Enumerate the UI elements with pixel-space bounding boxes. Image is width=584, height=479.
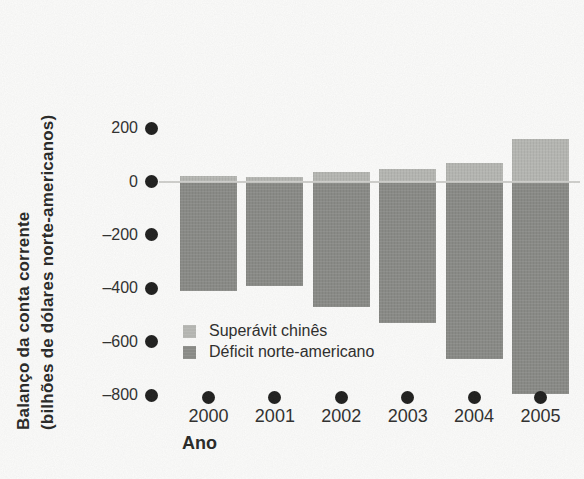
- y-tick-bullet-icon: [145, 122, 158, 135]
- legend-swatch-superavit-icon: [183, 325, 196, 338]
- legend-label-deficit: Déficit norte-americano: [209, 343, 374, 361]
- y-tick-row: 200: [78, 118, 158, 138]
- y-tick-row: –200: [78, 225, 158, 245]
- y-tick-bullet-icon: [145, 228, 158, 241]
- y-tick-bullet-icon: [145, 175, 158, 188]
- bar-deficit-2001: [246, 182, 303, 286]
- y-tick-bullet-icon: [145, 282, 158, 295]
- x-tick-label-2005: 2005: [501, 406, 581, 426]
- legend-swatch-deficit-icon: [183, 346, 196, 359]
- x-tick-bullet-icon: [468, 391, 481, 404]
- y-tick-label: –600: [102, 333, 138, 351]
- bar-deficit-2004: [446, 182, 503, 360]
- y-tick-label: –800: [102, 386, 138, 404]
- x-tick-bullet-icon: [202, 391, 215, 404]
- legend-label-superavit: Superávit chinês: [209, 322, 327, 340]
- current-account-balance-chart: Balanço da conta corrente (bilhões de dó…: [0, 0, 584, 479]
- y-tick-bullet-icon: [145, 389, 158, 402]
- bar-superavit-2005: [512, 139, 569, 181]
- y-axis-title: Balanço da conta corrente (bilhões de dó…: [12, 28, 60, 430]
- x-tick-bullet-icon: [335, 391, 348, 404]
- legend: Superávit chinês Déficit norte-americano: [183, 322, 374, 361]
- y-tick-label: 0: [129, 173, 138, 191]
- y-tick-row: 0: [78, 172, 158, 192]
- y-tick-bullet-icon: [145, 335, 158, 348]
- legend-item-superavit: Superávit chinês: [183, 322, 374, 340]
- zero-line: [159, 181, 580, 183]
- y-axis-title-line2: (bilhões de dólares norte-americanos): [36, 28, 60, 430]
- bar-deficit-2002: [313, 182, 370, 307]
- bar-deficit-2003: [379, 182, 436, 324]
- legend-item-deficit: Déficit norte-americano: [183, 343, 374, 361]
- y-axis-title-line1: Balanço da conta corrente: [12, 28, 36, 430]
- y-tick-label: –200: [102, 226, 138, 244]
- bar-deficit-2005: [512, 182, 569, 394]
- bar-superavit-2004: [446, 163, 503, 182]
- y-tick-row: –400: [78, 278, 158, 298]
- x-tick-bullet-icon: [268, 391, 281, 404]
- y-tick-label: 200: [111, 119, 138, 137]
- bar-deficit-2000: [180, 182, 237, 291]
- y-tick-row: –600: [78, 332, 158, 352]
- x-tick-bullet-icon: [534, 391, 547, 404]
- y-tick-row: –800: [78, 385, 158, 405]
- y-tick-label: –400: [102, 279, 138, 297]
- x-tick-bullet-icon: [401, 391, 414, 404]
- x-axis-title: Ano: [182, 433, 217, 454]
